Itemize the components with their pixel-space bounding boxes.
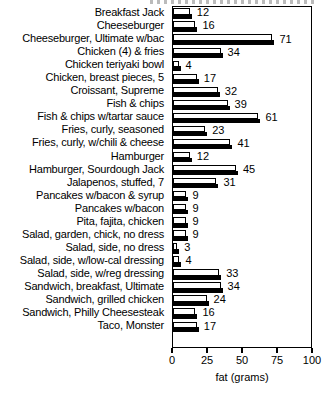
- bar-shadow: [173, 314, 197, 319]
- category-label: Salad, side, w/low-cal dressing: [0, 254, 168, 267]
- bar-shadow: [173, 327, 199, 332]
- bar: [173, 178, 216, 184]
- bar-row: 9: [173, 190, 311, 203]
- bar-value-label: 12: [193, 6, 209, 19]
- bar-shadow: [173, 27, 197, 32]
- bar-shadow: [173, 53, 223, 58]
- bar: [173, 74, 197, 80]
- category-label: Cheeseburger: [0, 19, 168, 32]
- bar: [173, 165, 236, 171]
- bar: [173, 295, 207, 301]
- bar: [173, 152, 190, 158]
- bar-value-label: 24: [210, 293, 226, 306]
- category-label: Jalapenos, stuffed, 7: [0, 176, 168, 189]
- x-tick-mark: [241, 348, 242, 353]
- bar-row: 12: [173, 7, 311, 20]
- bar: [173, 34, 272, 40]
- bar-shadow: [173, 262, 181, 267]
- bar-shadow: [173, 79, 199, 84]
- bar-shadow: [173, 92, 220, 97]
- x-tick-mark: [311, 348, 312, 353]
- bar: [173, 126, 205, 132]
- category-label: Salad, side, no dress: [0, 241, 168, 254]
- bar-shadow: [173, 158, 192, 163]
- bar-value-label: 16: [198, 306, 214, 319]
- bar-row: 39: [173, 98, 311, 111]
- bar-row: 33: [173, 268, 311, 281]
- x-axis-title: fat (grams): [172, 371, 312, 383]
- bar: [173, 61, 179, 67]
- x-axis: 0255075100: [172, 348, 312, 349]
- bar-shadow: [173, 66, 181, 71]
- category-label: Fish & chips: [0, 97, 168, 110]
- bar-row: 61: [173, 111, 311, 124]
- bar-value-label: 33: [222, 267, 238, 280]
- bar-value-label: 3: [180, 241, 190, 254]
- bar-row: 4: [173, 59, 311, 72]
- category-label: Cheeseburger, Ultimate w/bac: [0, 32, 168, 45]
- bar-row: 34: [173, 46, 311, 59]
- bar-value-label: 16: [198, 19, 214, 32]
- bar-row: 41: [173, 137, 311, 150]
- bar-shadow: [173, 236, 188, 241]
- category-label: Fish & chips w/tartar sauce: [0, 110, 168, 123]
- bar: [173, 8, 190, 14]
- bar-shadow: [173, 288, 223, 293]
- category-label: Pancakes w/bacon & syrup: [0, 189, 168, 202]
- bar-row: 31: [173, 177, 311, 190]
- x-tick-mark: [171, 348, 172, 353]
- bar-value-label: 9: [189, 228, 199, 241]
- bar: [173, 322, 197, 328]
- bar: [173, 48, 221, 54]
- bar: [173, 113, 258, 119]
- bar-shadow: [173, 106, 230, 111]
- bar: [173, 100, 228, 106]
- bar-row: 16: [173, 307, 311, 320]
- bar-row: 16: [173, 20, 311, 33]
- bar-value-label: 17: [200, 72, 216, 85]
- bar-shadow: [173, 210, 188, 215]
- bar-row: 32: [173, 85, 311, 98]
- bar-row: 17: [173, 320, 311, 333]
- bar: [173, 256, 179, 262]
- bar-shadow: [173, 171, 238, 176]
- bar-value-label: 9: [189, 215, 199, 228]
- bar-value-label: 39: [231, 98, 247, 111]
- bar-value-label: 9: [189, 202, 199, 215]
- category-label: Chicken teriyaki bowl: [0, 58, 168, 71]
- x-tick-label: 50: [236, 354, 248, 366]
- category-label: Pancakes w/bacon: [0, 202, 168, 215]
- category-label: Fries, curly, w/chili & cheese: [0, 136, 168, 149]
- bar-shadow: [173, 145, 232, 150]
- scan-artifact: [150, 0, 315, 4]
- bar-shadow: [173, 197, 188, 202]
- bar: [173, 269, 219, 275]
- x-tick-label: 0: [169, 354, 175, 366]
- bar-row: 23: [173, 124, 311, 137]
- bar-value-label: 41: [233, 137, 249, 150]
- bar-chart: Breakfast JackCheeseburgerCheeseburger, …: [0, 0, 334, 393]
- bar-row: 3: [173, 242, 311, 255]
- bar-value-label: 31: [219, 176, 235, 189]
- bar-value-label: 17: [200, 320, 216, 333]
- category-label: Croissant, Supreme: [0, 84, 168, 97]
- category-label: Chicken, breast pieces, 5: [0, 71, 168, 84]
- bar-shadow: [173, 301, 209, 306]
- bar-value-label: 32: [221, 85, 237, 98]
- bar-value-label: 34: [224, 280, 240, 293]
- bar-shadow: [173, 275, 221, 280]
- bar-row: 4: [173, 255, 311, 268]
- category-label: Hamburger, Sourdough Jack: [0, 163, 168, 176]
- bar-value-label: 71: [275, 33, 291, 46]
- category-label: Fries, curly, seasoned: [0, 123, 168, 136]
- category-label: Sandwich, grilled chicken: [0, 293, 168, 306]
- bar-value-label: 34: [224, 46, 240, 59]
- bar: [173, 204, 186, 210]
- category-label: Hamburger: [0, 150, 168, 163]
- x-tick-label: 75: [271, 354, 283, 366]
- x-tick-label: 100: [303, 354, 321, 366]
- bar-value-label: 4: [182, 59, 192, 72]
- category-label: Breakfast Jack: [0, 6, 168, 19]
- bar-shadow: [173, 119, 260, 124]
- bar-row: 9: [173, 216, 311, 229]
